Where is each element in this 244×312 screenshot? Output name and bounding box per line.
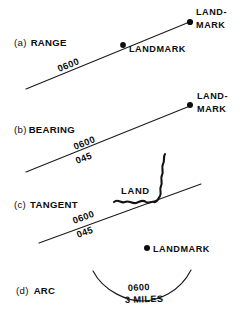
arc-distance-label: 3 MILES — [125, 294, 164, 305]
section-title-tangent: (c)TANGENT — [14, 199, 78, 210]
range-landmark-far-dot — [187, 19, 193, 25]
section-title-range: (a)RANGE — [14, 37, 67, 48]
range-landmark-near-label: LANDMARK — [129, 44, 186, 54]
arc-time-label: 0600 — [128, 282, 151, 293]
navigation-diagram: (a)RANGE (b)BEARING (c)TANGENT (d)ARC LA… — [0, 0, 244, 312]
section-title-arc: (d)ARC — [16, 285, 55, 296]
bearing-landmark-dot — [187, 102, 193, 108]
tangent-line-of-position — [39, 184, 201, 243]
tangent-degrees-label: 045 — [75, 224, 95, 240]
range-landmark-far-label-line2: MARK — [196, 20, 225, 30]
arc-landmark-dot — [144, 245, 150, 251]
bearing-landmark-label-line1: LAND- — [197, 91, 228, 101]
arc-landmark-label: LANDMARK — [153, 244, 210, 254]
range-landmark-near-dot — [120, 42, 126, 48]
bearing-landmark-label-line2: MARK — [197, 104, 226, 114]
range-line-of-position — [26, 21, 192, 89]
bearing-line-of-position — [26, 106, 190, 172]
diagram-canvas: (a)RANGE (b)BEARING (c)TANGENT (d)ARC LA… — [0, 0, 244, 312]
range-time-label: 0600 — [56, 55, 81, 73]
section-title-bearing: (b)BEARING — [14, 124, 75, 135]
bearing-group — [26, 102, 193, 172]
range-landmark-far-label-line1: LAND- — [196, 7, 227, 17]
land-mass-label: LAND — [121, 185, 150, 196]
